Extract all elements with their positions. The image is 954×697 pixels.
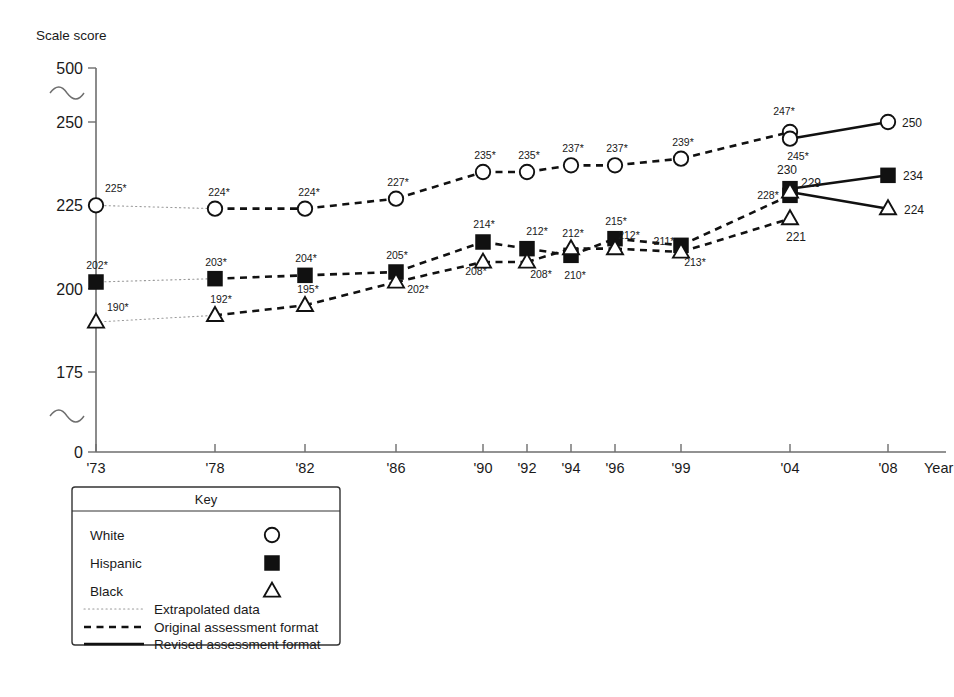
x-tick-label: '04 [781,460,800,476]
data-point-label: 239* [672,136,694,148]
marker-circle-open-icon[interactable] [298,201,312,215]
series-line-segment [215,275,305,278]
key-title: Key [195,492,218,507]
series-line-segment [790,192,888,209]
x-tick-label: '90 [474,460,493,476]
data-point-label: 227* [387,176,409,188]
marker-circle-open-icon[interactable] [389,191,403,205]
marker-circle-open-icon[interactable] [564,158,578,172]
data-point-label: 203* [205,256,227,268]
data-point-label: 235* [518,149,540,161]
series-line-segment [96,205,215,208]
marker-square-filled-icon[interactable] [89,275,103,289]
data-point-label: 215* [605,215,627,227]
series-line-segment [96,279,215,282]
data-point-label: 224* [298,186,320,198]
line-chart: 5002502252001750'73'78'82'86'90'92'94'96… [0,0,954,697]
marker-square-filled-icon[interactable] [476,235,490,249]
series-line-segment [215,305,305,315]
marker-triangle-open-icon[interactable] [563,240,579,254]
key-series-label: Black [90,584,123,599]
x-tick-label: '96 [606,460,625,476]
data-point-label: 204* [295,252,317,264]
marker-circle-open-icon[interactable] [89,198,103,212]
data-point-label: 247* [773,105,795,117]
key-line-label: Revised assessment format [154,637,321,652]
marker-circle-open-icon[interactable] [881,115,895,129]
data-point-label: 214* [473,218,495,230]
data-point-label: 190* [107,301,129,313]
key-line-label: Original assessment format [154,620,319,635]
marker-circle-open-icon[interactable] [208,201,222,215]
y-tick-label: 225 [56,197,83,214]
x-axis-title: Year [924,460,953,476]
marker-circle-open-icon[interactable] [608,158,622,172]
data-point-label: 230 [777,163,797,177]
series-line-segment [681,132,790,159]
square-filled-icon [265,556,279,570]
marker-square-filled-icon[interactable] [881,168,895,182]
chart-container: 5002502252001750'73'78'82'86'90'92'94'96… [0,0,954,697]
data-point-label: 224 [904,203,924,217]
marker-square-filled-icon[interactable] [298,268,312,282]
x-tick-label: '94 [562,460,581,476]
data-point-label: 237* [562,142,584,154]
series-line-segment [615,159,681,166]
series-line-segment [305,272,396,275]
data-point-label: 245* [787,150,809,162]
data-point-label: 229 [801,176,821,190]
data-point-label: 208* [465,265,487,277]
circle-open-icon [265,528,279,542]
axis-break-icon [50,410,84,422]
data-point-label: 213* [684,256,706,268]
x-tick-label: '82 [296,460,315,476]
series-line-segment [396,172,483,199]
data-point-label: 250 [902,116,922,130]
y-tick-label: 500 [56,60,83,77]
data-point-label: 235* [474,149,496,161]
data-point-label: 202* [407,283,429,295]
x-tick-label: '78 [206,460,225,476]
series-line-segment [96,315,215,322]
x-tick-label: '73 [87,460,106,476]
data-point-label: 195* [297,283,319,295]
y-tick-label: 175 [56,364,83,381]
data-point-label: 208* [530,268,552,280]
marker-triangle-open-icon[interactable] [782,210,798,224]
marker-circle-open-icon[interactable] [520,165,534,179]
chart-key: KeyWhiteHispanicBlackExtrapolated dataOr… [72,487,340,652]
marker-triangle-open-icon[interactable] [88,314,104,328]
data-point-label: 237* [606,142,628,154]
series-line-segment [681,195,790,245]
key-series-label: Hispanic [90,556,142,571]
marker-circle-open-icon[interactable] [783,131,797,145]
data-point-label: 202* [86,259,108,271]
data-point-label: 192* [210,293,232,305]
data-point-label: 221 [786,230,806,244]
key-series-label: White [90,528,125,543]
series-line-segment [305,199,396,209]
series-line-segment [681,219,790,252]
data-point-label: 205* [386,249,408,261]
marker-circle-open-icon[interactable] [476,165,490,179]
marker-circle-open-icon[interactable] [674,151,688,165]
series-line-segment [790,122,888,139]
key-line-label: Extrapolated data [154,602,260,617]
x-tick-label: '92 [518,460,537,476]
marker-square-filled-icon[interactable] [208,272,222,286]
data-point-label: 212* [526,225,548,237]
data-point-label: 211* [654,235,675,247]
data-point-label: 210* [564,269,586,281]
data-point-label: 212* [562,227,584,239]
data-point-label: 225* [105,182,127,194]
x-tick-label: '99 [672,460,691,476]
data-point-label: 224* [208,186,230,198]
series-line-segment [615,249,681,252]
data-point-label: 212* [618,229,640,241]
axes: 5002502252001750'73'78'82'86'90'92'94'96… [36,28,953,476]
axis-break-icon [50,87,84,99]
y-axis-title: Scale score [36,28,107,43]
y-tick-label: 250 [56,114,83,131]
y-tick-label: 200 [56,281,83,298]
data-point-label: 228* [757,189,779,201]
